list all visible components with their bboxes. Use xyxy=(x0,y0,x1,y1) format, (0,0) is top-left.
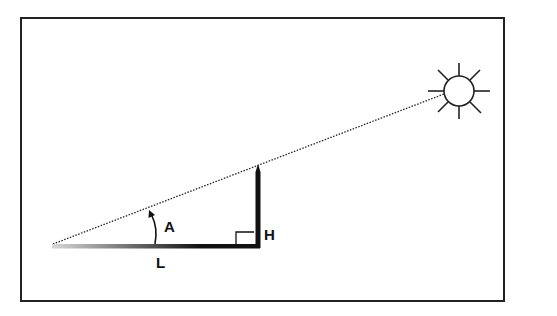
height-label: H xyxy=(264,226,275,243)
pole xyxy=(256,164,261,248)
angle-label: A xyxy=(164,218,175,235)
length-label: L xyxy=(156,254,165,271)
shadow-length-line xyxy=(52,244,260,249)
sun-angle-diagram: A H L xyxy=(0,0,557,316)
diagram-frame xyxy=(21,18,504,301)
